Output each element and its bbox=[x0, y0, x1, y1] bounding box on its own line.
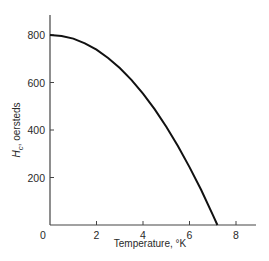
x-tick-label: 8 bbox=[233, 229, 239, 241]
x-axis-label: Temperature, °K bbox=[114, 238, 187, 249]
y-tick-label: 200 bbox=[27, 172, 45, 184]
x-tick-label: 6 bbox=[187, 229, 193, 241]
x-tick-label: 0 bbox=[40, 229, 46, 241]
y-axis-label: Hc, oersteds bbox=[11, 102, 25, 157]
ticks: 20040060080002468 bbox=[27, 29, 239, 241]
x-tick-label: 2 bbox=[94, 229, 100, 241]
critical-field-chart: 20040060080002468 Temperature, °K Hc, oe… bbox=[0, 0, 269, 261]
y-axis-label-rest: , oersteds bbox=[11, 102, 22, 146]
y-tick-label: 600 bbox=[27, 77, 45, 89]
axes bbox=[50, 15, 256, 225]
hc-curve bbox=[50, 35, 217, 225]
y-tick-label: 800 bbox=[27, 29, 45, 41]
y-tick-label: 400 bbox=[27, 124, 45, 136]
